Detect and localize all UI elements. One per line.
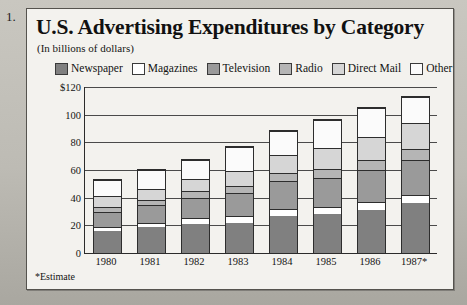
bar-slot	[261, 87, 305, 253]
y-axis-tick-label: 80	[71, 137, 82, 148]
bar-segment-television	[270, 181, 297, 209]
x-axis-tick-label: 1981	[128, 256, 172, 270]
bar-slot	[305, 87, 349, 253]
bar-segment-direct-mail	[358, 137, 385, 161]
bar-segment-other	[270, 131, 297, 155]
x-axis-tick-label: 1987*	[392, 256, 436, 270]
bar-segment-newspaper	[94, 231, 121, 253]
bar-segment-television	[314, 178, 341, 207]
bar-segment-radio	[402, 149, 429, 160]
plot-area	[84, 87, 437, 254]
x-axis-tick-label: 1982	[172, 256, 216, 270]
bar-segment-television	[402, 160, 429, 195]
y-axis-tick-label: 0	[76, 248, 81, 259]
bar-segment-newspaper	[138, 227, 165, 253]
bar-segment-newspaper	[314, 214, 341, 253]
bar-slot	[217, 87, 261, 253]
bar-segment-direct-mail	[138, 189, 165, 200]
bar-segment-other	[402, 97, 429, 123]
bar-segment-radio	[358, 160, 385, 170]
bar-segment-direct-mail	[94, 196, 121, 206]
x-axis-tick-label: 1980	[84, 256, 128, 270]
bar-segment-other	[314, 120, 341, 148]
x-axis-tick-label: 1984	[260, 256, 304, 270]
bar-segment-television	[182, 198, 209, 219]
bar-segment-direct-mail	[402, 123, 429, 149]
x-axis-tick-label: 1986	[348, 256, 392, 270]
bar-slot	[349, 87, 393, 253]
y-axis-tick-label: 60	[71, 165, 82, 176]
bar-slot	[129, 87, 173, 253]
bar-segment-magazines	[314, 207, 341, 215]
stacked-bar[interactable]	[225, 146, 254, 253]
y-axis-tick-label: 20	[71, 220, 82, 231]
stacked-bar[interactable]	[137, 169, 166, 253]
stacked-bar[interactable]	[269, 130, 298, 253]
bar-segment-newspaper	[358, 210, 385, 253]
bar-segment-radio	[314, 169, 341, 178]
list-item-number: 1.	[6, 9, 16, 25]
x-axis-tick-label: 1983	[216, 256, 260, 270]
stacked-bar[interactable]	[401, 96, 430, 253]
plot-wrapper: 020406080100$120 19801981198219831984198…	[27, 9, 454, 290]
bar-segment-magazines	[402, 195, 429, 203]
bar-segment-radio	[270, 173, 297, 181]
bar-slot	[85, 87, 129, 253]
bar-segment-other	[226, 147, 253, 171]
bar-slot	[173, 87, 217, 253]
stacked-bar[interactable]	[93, 179, 122, 253]
bar-segment-other	[94, 180, 121, 197]
bar-group	[85, 87, 437, 253]
bar-segment-magazines	[270, 209, 297, 216]
y-axis-tick-label: 40	[71, 192, 82, 203]
bar-segment-magazines	[358, 202, 385, 210]
bar-segment-television	[94, 212, 121, 227]
bar-segment-newspaper	[226, 223, 253, 253]
bar-segment-other	[182, 160, 209, 179]
stacked-bar[interactable]	[181, 159, 210, 253]
bar-segment-direct-mail	[270, 155, 297, 173]
bar-segment-newspaper	[402, 203, 429, 253]
chart-figure-card: U.S. Advertising Expenditures by Categor…	[26, 8, 454, 290]
bar-segment-television	[226, 193, 253, 217]
bar-slot	[393, 87, 437, 253]
bar-segment-television	[358, 170, 385, 202]
y-axis-tick-label: $120	[60, 82, 81, 93]
x-axis-tick-labels: 19801981198219831984198519861987*	[84, 256, 436, 270]
bar-segment-newspaper	[270, 216, 297, 253]
bar-segment-television	[138, 205, 165, 222]
bar-segment-direct-mail	[226, 171, 253, 186]
bar-segment-other	[138, 170, 165, 189]
page-background: 1. U.S. Advertising Expenditures by Cate…	[0, 0, 467, 305]
bar-segment-radio	[226, 186, 253, 193]
bar-segment-other	[358, 108, 385, 137]
chart-footnote: *Estimate	[35, 271, 75, 282]
y-axis-tick-labels: 020406080100$120	[39, 87, 81, 253]
stacked-bar[interactable]	[357, 107, 386, 253]
bar-segment-newspaper	[182, 224, 209, 253]
y-axis-tick-label: 100	[65, 109, 81, 120]
x-axis-tick-label: 1985	[304, 256, 348, 270]
bar-segment-direct-mail	[314, 148, 341, 169]
bar-segment-direct-mail	[182, 179, 209, 191]
stacked-bar[interactable]	[313, 119, 342, 253]
